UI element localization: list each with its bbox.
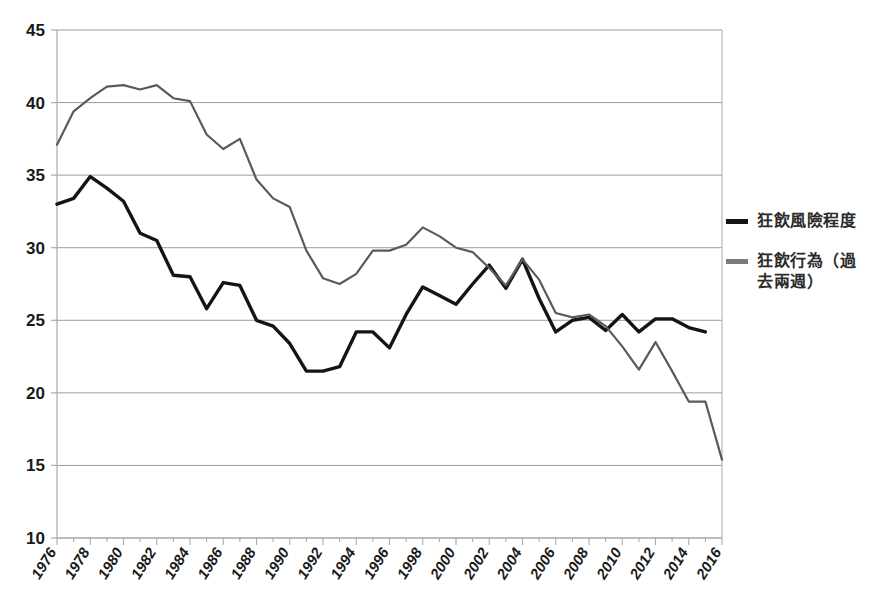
x-tick-label: 1978 [61,544,93,582]
x-tick-label: 1984 [160,544,192,582]
x-tick-label: 2006 [526,544,559,583]
x-tick-label: 2014 [659,544,692,583]
y-tick-label: 35 [26,166,45,185]
x-tick-label: 1988 [227,544,259,582]
y-tick-label: 30 [26,239,45,258]
x-tick-label: 2002 [459,544,492,583]
y-tick-label: 15 [26,456,45,475]
x-tick-label: 1982 [127,544,159,582]
x-tick-label: 2012 [625,544,658,583]
data-series-group [57,85,722,459]
x-axis-tick-labels: 1976197819801982198419861988199019921994… [27,544,724,583]
x-tick-label: 2004 [492,544,525,583]
y-axis-tick-labels: 1015202530354045 [26,21,57,548]
x-tick-label: 1980 [94,544,126,582]
axis-lines-group [57,30,722,538]
x-tick-label: 1992 [293,544,325,582]
x-tick-label: 1990 [260,544,292,582]
y-tick-label: 25 [26,311,45,330]
gridlines-group [57,30,722,538]
legend-item-label: 狂飲行為（過 去兩週） [757,250,875,293]
series-line-binge-risk [57,177,705,372]
chart-legend: 狂飲風險程度 狂飲行為（過 去兩週） [726,210,883,311]
x-tick-label: 2016 [692,544,725,583]
legend-item-binge-behavior: 狂飲行為（過 去兩週） [726,250,883,293]
legend-item-label: 狂飲風險程度 [757,210,875,232]
x-tick-label: 1976 [27,544,59,582]
legend-color-swatch-black [726,219,748,224]
legend-item-binge-risk: 狂飲風險程度 [726,210,883,232]
line-chart: 1015202530354045 19761978198019821984198… [0,0,883,607]
series-line-binge-behavior [57,85,722,459]
x-tick-label: 1998 [393,544,425,582]
y-tick-label: 10 [26,529,45,548]
y-tick-label: 20 [26,384,45,403]
x-tick-label: 1996 [360,544,392,582]
x-tick-label: 1986 [194,544,226,582]
y-tick-label: 40 [26,94,45,113]
y-tick-label: 45 [26,21,45,40]
x-tick-label: 2000 [426,544,459,583]
x-tick-label: 1994 [327,544,359,582]
x-tick-label: 2010 [592,544,625,583]
legend-color-swatch-gray [726,259,748,264]
x-tick-marks-group [57,538,722,545]
x-tick-label: 2008 [559,544,592,583]
